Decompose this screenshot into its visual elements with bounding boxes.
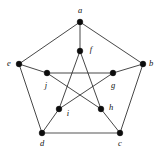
graph-edge-e-a — [19, 22, 80, 64]
graph-vertex-label-j: j — [44, 80, 48, 90]
graph-vertex-f — [77, 48, 83, 54]
graph-edge-g-i — [59, 73, 113, 109]
graph-edge-i-f — [59, 51, 80, 109]
graph-edge-h-j — [47, 73, 101, 109]
graph-vertex-j — [44, 70, 50, 76]
petersen-graph-figure: abcdefghij — [0, 0, 161, 150]
graph-vertex-c — [117, 130, 123, 136]
graph-canvas: abcdefghij — [0, 0, 161, 150]
graph-vertex-d — [39, 130, 45, 136]
graph-vertex-label-d: d — [40, 138, 45, 148]
graph-edge-d-e — [19, 64, 42, 133]
graph-edge-d-i — [42, 109, 59, 133]
graph-vertex-label-a: a — [78, 5, 82, 15]
graph-vertex-label-e: e — [7, 58, 11, 68]
graph-vertex-label-f: f — [90, 44, 94, 54]
graph-edge-e-j — [19, 64, 47, 73]
graph-vertex-a — [77, 19, 83, 25]
graph-vertex-label-h: h — [109, 102, 113, 112]
edges-layer — [19, 22, 143, 133]
graph-vertex-label-i: i — [67, 108, 70, 118]
vertices-layer — [16, 19, 146, 136]
graph-vertex-label-b: b — [149, 58, 153, 68]
graph-vertex-e — [16, 61, 22, 67]
graph-vertex-h — [98, 106, 104, 112]
graph-vertex-b — [140, 61, 146, 67]
graph-vertex-label-g: g — [111, 80, 115, 90]
graph-edge-c-h — [101, 109, 120, 133]
graph-vertex-g — [110, 70, 116, 76]
graph-edge-f-h — [80, 51, 101, 109]
graph-vertex-label-c: c — [118, 138, 122, 148]
graph-edge-b-c — [120, 64, 143, 133]
graph-edge-b-g — [113, 64, 143, 73]
graph-vertex-i — [56, 106, 62, 112]
